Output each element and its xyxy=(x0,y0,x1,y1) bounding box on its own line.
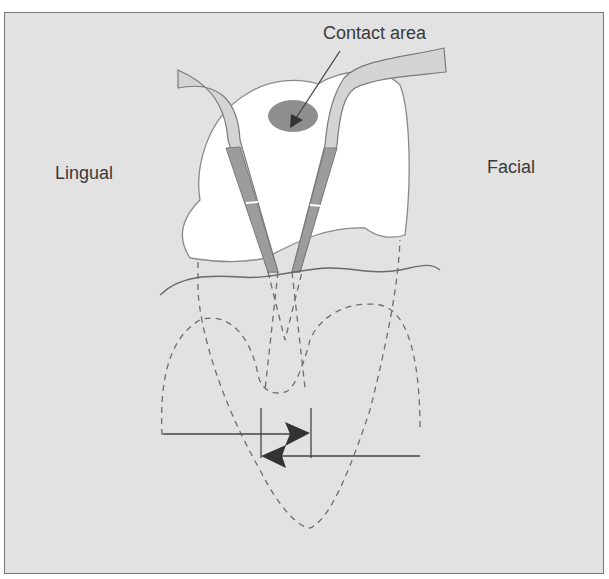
label-lingual: Lingual xyxy=(55,163,113,184)
tooth-diagram xyxy=(0,0,609,579)
label-facial: Facial xyxy=(487,157,535,178)
label-contact-area: Contact area xyxy=(323,23,426,44)
